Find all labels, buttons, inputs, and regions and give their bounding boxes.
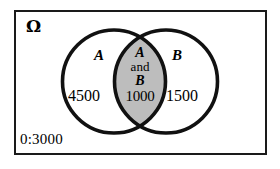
- intersection-set-a-label: A: [118, 46, 162, 60]
- intersection-set-b-label: B: [118, 74, 162, 88]
- set-b-label: B: [172, 48, 182, 63]
- intersection-label-group: A and B 1000: [118, 46, 162, 104]
- intersection-conjunction: and: [118, 60, 162, 73]
- set-b-only-count: 1500: [166, 88, 198, 104]
- intersection-count: 1000: [118, 89, 162, 104]
- universe-omega-label: Ω: [26, 18, 41, 35]
- figure-canvas: Ω A B 4500 1500 A and B 1000 0:3000: [0, 0, 280, 169]
- set-a-only-count: 4500: [68, 88, 100, 104]
- set-a-label: A: [94, 48, 104, 63]
- universe-total-label: 0:3000: [20, 132, 63, 147]
